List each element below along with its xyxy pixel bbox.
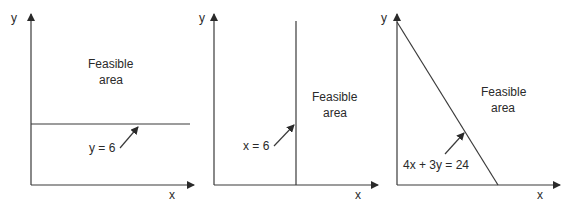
x-axis-label: x — [169, 188, 175, 202]
feasible-area-label-line1: Feasible — [312, 90, 358, 104]
x-axis-label: x — [355, 188, 361, 202]
y-axis-label: y — [11, 11, 17, 25]
panel-3: y x Feasible area 4x + 3y = 24 — [381, 11, 560, 202]
feasible-area-label-line1: Feasible — [88, 57, 134, 71]
x-axis-label: x — [537, 188, 543, 202]
pointer-arrow-icon — [120, 127, 138, 148]
pointer-arrow-icon — [274, 125, 294, 146]
feasible-area-label-line2: area — [99, 73, 123, 87]
pointer-arrow-icon — [445, 133, 464, 154]
feasible-region-diagrams: y x Feasible area y = 6 y x Feasible are… — [0, 0, 564, 208]
feasible-area-label-line1: Feasible — [481, 85, 527, 99]
y-axis-label: y — [199, 11, 205, 25]
constraint-label: x = 6 — [243, 139, 270, 153]
panel-1: y x Feasible area y = 6 — [11, 11, 194, 202]
feasible-area-label-line2: area — [491, 101, 515, 115]
constraint-label: 4x + 3y = 24 — [403, 158, 469, 172]
feasible-area-label-line2: area — [323, 106, 347, 120]
y-axis-label: y — [381, 11, 387, 25]
panel-2: y x Feasible area x = 6 — [199, 11, 378, 202]
constraint-label: y = 6 — [89, 141, 116, 155]
